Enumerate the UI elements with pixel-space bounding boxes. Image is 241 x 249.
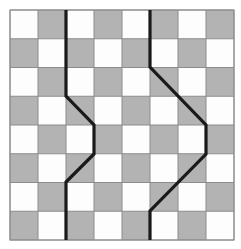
grid-cell-r3-c4 [94, 68, 122, 97]
grid-cell-r8-c2 [38, 211, 66, 240]
grid-cell-r1-c2 [38, 10, 66, 39]
checkerboard-diagram [0, 0, 241, 249]
grid-cell-r2-c6 [150, 39, 178, 68]
grid-cell-r3-c1 [10, 68, 38, 97]
grid-cell-r7-c7 [178, 183, 206, 212]
grid-cell-r4-c8 [206, 96, 234, 125]
grid-cell-r6-c6 [150, 154, 178, 183]
grid-cell-r8-c5 [122, 211, 150, 240]
grid-cell-r2-c5 [122, 39, 150, 68]
grid-cell-r8-c1 [10, 211, 38, 240]
grid-cell-r1-c7 [178, 10, 206, 39]
grid-cell-r5-c5 [122, 125, 150, 154]
grid-cell-r1-c3 [66, 10, 94, 39]
grid-cell-r2-c3 [66, 39, 94, 68]
grid-cell-r5-c4 [94, 125, 122, 154]
grid-cell-r4-c1 [10, 96, 38, 125]
grid-cell-r6-c8 [206, 154, 234, 183]
grid-cell-r2-c2 [38, 39, 66, 68]
grid-cell-r2-c7 [178, 39, 206, 68]
grid-cell-r8-c3 [66, 211, 94, 240]
grid-cell-r1-c4 [94, 10, 122, 39]
grid-cell-r7-c4 [94, 183, 122, 212]
grid-cell-r8-c8 [206, 211, 234, 240]
grid-cell-r4-c6 [150, 96, 178, 125]
grid-cell-r2-c1 [10, 39, 38, 68]
grid-cell-r4-c4 [94, 96, 122, 125]
grid-cell-r7-c2 [38, 183, 66, 212]
grid-cell-r5-c2 [38, 125, 66, 154]
grid-cell-r7-c3 [66, 183, 94, 212]
figure-root [0, 0, 241, 249]
grid-cell-r5-c7 [178, 125, 206, 154]
grid-cell-r8-c7 [178, 211, 206, 240]
grid-cell-r7-c5 [122, 183, 150, 212]
grid-cell-r4-c5 [122, 96, 150, 125]
grid-cell-r3-c3 [66, 68, 94, 97]
grid-cell-r2-c8 [206, 39, 234, 68]
grid-cell-r5-c8 [206, 125, 234, 154]
grid-cell-r7-c1 [10, 183, 38, 212]
grid-cell-r8-c6 [150, 211, 178, 240]
grid-cell-r3-c8 [206, 68, 234, 97]
grid-cell-r8-c4 [94, 211, 122, 240]
grid-cell-r1-c8 [206, 10, 234, 39]
grid-cell-r3-c7 [178, 68, 206, 97]
grid-cell-r6-c1 [10, 154, 38, 183]
grid-cell-r6-c4 [94, 154, 122, 183]
grid-cell-r6-c5 [122, 154, 150, 183]
grid-cell-r5-c6 [150, 125, 178, 154]
grid-cell-r1-c1 [10, 10, 38, 39]
grid-cell-r2-c4 [94, 39, 122, 68]
grid-cell-r5-c3 [66, 125, 94, 154]
grid-cell-r4-c2 [38, 96, 66, 125]
grid-cell-r3-c5 [122, 68, 150, 97]
grid-cell-r6-c2 [38, 154, 66, 183]
grid-cell-r7-c8 [206, 183, 234, 212]
grid-cell-r1-c6 [150, 10, 178, 39]
grid-cell-r1-c5 [122, 10, 150, 39]
grid-cell-r5-c1 [10, 125, 38, 154]
grid-cell-r3-c2 [38, 68, 66, 97]
